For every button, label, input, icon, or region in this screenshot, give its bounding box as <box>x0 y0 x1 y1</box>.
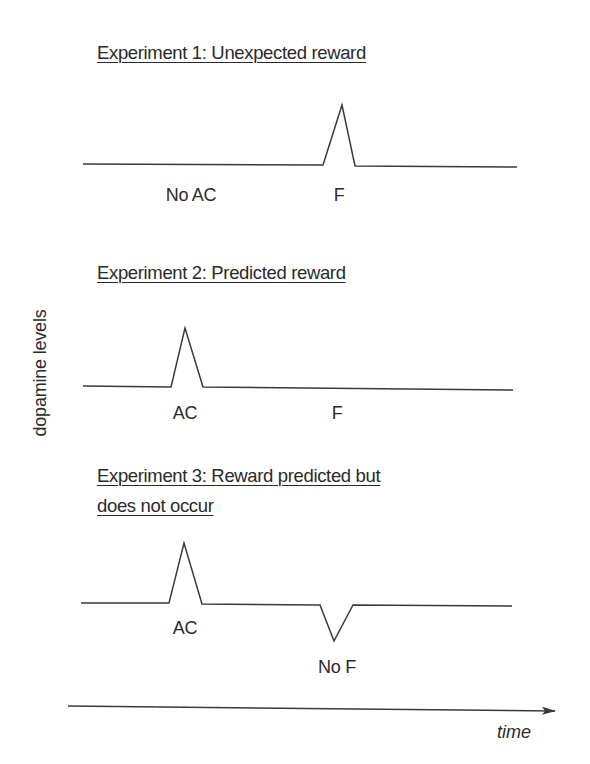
panel-3-dopamine-trace <box>81 543 512 641</box>
panel-3-title-line-2: does not occur <box>97 491 213 521</box>
panel-2-label-f: F <box>332 402 343 424</box>
panel-2-title: Experiment 2: Predicted reward <box>97 258 346 288</box>
traces-canvas <box>0 0 590 764</box>
panel-2-dopamine-trace <box>83 328 513 390</box>
panel-1-title: Experiment 1: Unexpected reward <box>97 38 366 68</box>
dopamine-figure: Experiment 1: Unexpected reward No AC F … <box>0 0 590 764</box>
panel-1-dopamine-trace <box>83 105 517 167</box>
panel-2-label-ac: AC <box>173 402 197 424</box>
time-axis-arrow <box>68 706 555 711</box>
panel-3-label-no-f: No F <box>318 656 356 678</box>
panel-3-title-line-1: Experiment 3: Reward predicted but <box>97 461 380 491</box>
panel-3-label-ac: AC <box>173 617 197 639</box>
y-axis-label: dopamine levels <box>30 309 51 436</box>
panel-1-label-f: F <box>334 184 345 206</box>
x-axis-label: time <box>497 722 531 743</box>
panel-1-label-no-ac: No AC <box>166 184 217 206</box>
